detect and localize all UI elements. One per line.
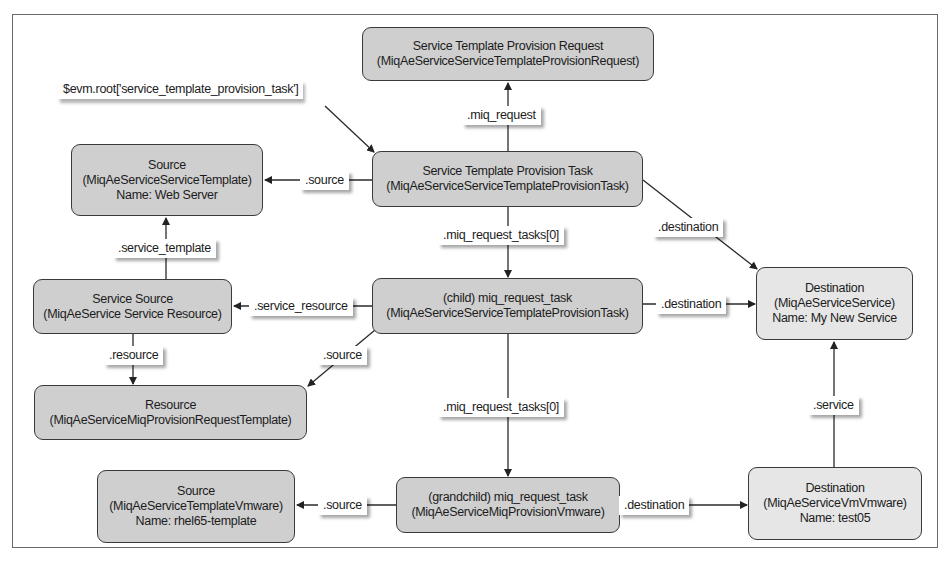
edge-label-service-template: .service_template — [113, 239, 216, 258]
node-class: (MiqAeServiceMiqProvisionVmware) — [411, 505, 604, 520]
source-template-vmware-node: Source (MiqAeServiceTemplateVmware) Name… — [97, 470, 295, 543]
edge-label-child-source: .source — [318, 346, 367, 365]
edge-label-task-destination: .destination — [653, 218, 723, 237]
destination-service-node: Destination (MiqAeServiceService) Name: … — [756, 267, 913, 340]
node-name: Name: test05 — [800, 511, 871, 526]
node-title: (grandchild) miq_request_task — [428, 490, 587, 505]
node-title: Service Template Provision Request — [413, 39, 603, 54]
node-title: Service Template Provision Task — [422, 164, 592, 179]
edge-label-task-miq-request-tasks: .miq_request_tasks[0] — [438, 226, 564, 245]
node-name: Name: Web Server — [116, 188, 217, 203]
service-template-provision-request-node: Service Template Provision Request (MiqA… — [362, 27, 654, 81]
node-title: Destination — [805, 481, 864, 496]
node-class: (MiqAeServiceServiceTemplateProvisionReq… — [377, 54, 639, 69]
node-class: (MiqAeServiceService) — [774, 296, 895, 311]
edge-label-miq-request: .miq_request — [462, 106, 541, 125]
grandchild-miq-request-task-node: (grandchild) miq_request_task (MiqAeServ… — [396, 477, 620, 533]
node-class: (MiqAeService Service Resource) — [43, 307, 221, 322]
edge-label-service-resource: .service_resource — [249, 297, 353, 316]
entry-label: $evm.root['service_template_provision_ta… — [58, 80, 303, 99]
node-name: Name: My New Service — [772, 311, 897, 326]
service-template-provision-task-node: Service Template Provision Task (MiqAeSe… — [372, 151, 643, 207]
edge-label-service: .service — [808, 396, 859, 415]
node-class: (MiqAeServiceServiceTemplate) — [82, 173, 251, 188]
edge-label-child-miq-request-tasks: .miq_request_tasks[0] — [438, 398, 564, 417]
node-title: Service Source — [92, 292, 173, 307]
edge-label-task-source: .source — [300, 171, 349, 190]
node-name: Name: rhel65-template — [136, 514, 257, 529]
node-title: Source — [177, 484, 215, 499]
node-title: Resource — [145, 398, 196, 413]
node-title: Destination — [805, 281, 864, 296]
edge-label-grandchild-source: .source — [318, 496, 367, 515]
node-class: (MiqAeServiceVmVmware) — [763, 496, 906, 511]
resource-node: Resource (MiqAeServiceMiqProvisionReques… — [34, 385, 307, 440]
edge-label-grandchild-destination: .destination — [619, 496, 689, 515]
source-service-template-node: Source (MiqAeServiceServiceTemplate) Nam… — [71, 144, 263, 216]
node-title: Source — [148, 158, 186, 173]
service-source-node: Service Source (MiqAeService Service Res… — [33, 279, 232, 334]
edge-label-child-destination: .destination — [656, 295, 726, 314]
destination-vm-vmware-node: Destination (MiqAeServiceVmVmware) Name:… — [748, 467, 922, 540]
node-class: (MiqAeServiceServiceTemplateProvisionTas… — [386, 179, 628, 194]
node-class: (MiqAeServiceTemplateVmware) — [109, 499, 283, 514]
node-class: (MiqAeServiceMiqProvisionRequestTemplate… — [50, 413, 292, 428]
node-class: (MiqAeServiceServiceTemplateProvisionTas… — [386, 306, 628, 321]
child-miq-request-task-node: (child) miq_request_task (MiqAeServiceSe… — [372, 278, 643, 334]
node-title: (child) miq_request_task — [443, 291, 572, 306]
edge-label-resource: .resource — [104, 346, 163, 365]
